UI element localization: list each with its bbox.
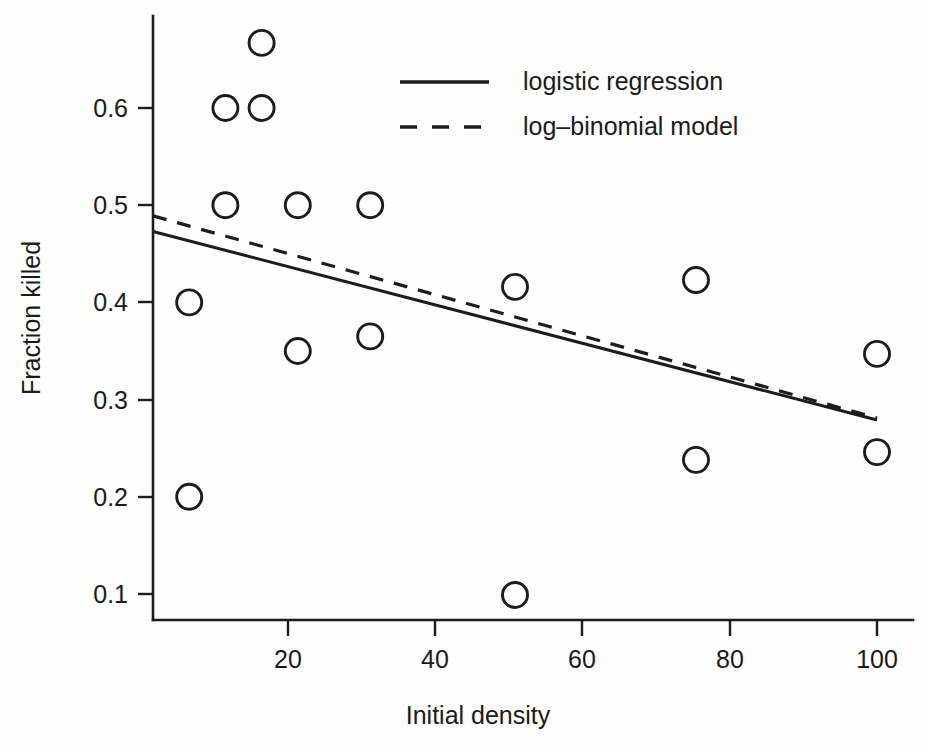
regression-line-solid bbox=[153, 231, 877, 420]
x-tick-label: 40 bbox=[421, 645, 449, 673]
x-tick-label: 20 bbox=[274, 645, 302, 673]
x-tick-label: 80 bbox=[716, 645, 744, 673]
x-tick-marks bbox=[288, 620, 877, 636]
data-point bbox=[684, 268, 709, 293]
regression-lines-group bbox=[153, 216, 877, 420]
data-point bbox=[249, 96, 274, 121]
data-point bbox=[285, 339, 310, 364]
regression-line-dashed bbox=[153, 216, 877, 418]
data-point bbox=[177, 484, 202, 509]
legend-label-log-binomial-model: log–binomial model bbox=[523, 112, 738, 140]
data-point bbox=[684, 447, 709, 472]
x-axis-group: 20 40 60 80 100 Initial density bbox=[153, 620, 913, 729]
data-point bbox=[865, 341, 890, 366]
legend-label-logistic-regression: logistic regression bbox=[523, 67, 723, 95]
x-tick-label: 100 bbox=[856, 645, 898, 673]
x-tick-labels: 20 40 60 80 100 bbox=[274, 645, 898, 673]
y-tick-label: 0.5 bbox=[93, 191, 128, 219]
data-point bbox=[503, 582, 528, 607]
y-axis-title: Fraction killed bbox=[17, 241, 45, 395]
data-point bbox=[358, 324, 383, 349]
data-point bbox=[503, 274, 528, 299]
y-tick-label: 0.4 bbox=[93, 288, 128, 316]
plot-canvas: 0.1 0.2 0.3 0.4 0.5 0.6 Fraction killed … bbox=[0, 0, 928, 751]
y-tick-label: 0.6 bbox=[93, 94, 128, 122]
x-axis-title: Initial density bbox=[406, 701, 551, 729]
data-point bbox=[213, 193, 238, 218]
y-tick-label: 0.2 bbox=[93, 483, 128, 511]
data-point bbox=[213, 96, 238, 121]
y-tick-marks bbox=[138, 108, 153, 594]
data-point bbox=[285, 193, 310, 218]
y-tick-label: 0.3 bbox=[93, 386, 128, 414]
data-point bbox=[865, 440, 890, 465]
data-point bbox=[249, 30, 274, 55]
scatter-plot-figure: 0.1 0.2 0.3 0.4 0.5 0.6 Fraction killed … bbox=[0, 0, 928, 751]
y-tick-label: 0.1 bbox=[93, 580, 128, 608]
legend: logistic regression log–binomial model bbox=[400, 67, 738, 140]
data-point bbox=[358, 193, 383, 218]
y-axis-group: 0.1 0.2 0.3 0.4 0.5 0.6 Fraction killed bbox=[17, 16, 153, 620]
y-tick-labels: 0.1 0.2 0.3 0.4 0.5 0.6 bbox=[93, 94, 128, 608]
data-point bbox=[177, 290, 202, 315]
x-tick-label: 60 bbox=[568, 645, 596, 673]
